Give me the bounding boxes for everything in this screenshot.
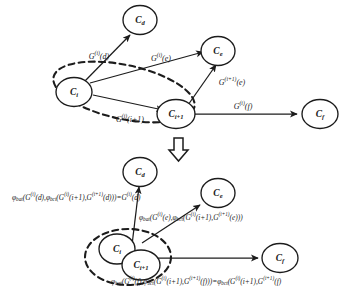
bottom-diagram: Cd Ce Ci Ci+1 Cf φbat(G(i)(d),φbct(G(i)(… [12, 158, 298, 287]
edge-label-gi1-e: G(i+1)(e) [219, 76, 246, 87]
figure-canvas: Cd Ce Ci Ci+1 Cf G(i)(d) G(i)(e) G(i)(i+… [0, 0, 352, 301]
node-cd-top: Cd [123, 6, 157, 35]
node-cd-bottom: Cd [123, 158, 157, 187]
edge-label-gi-d: G(i)(d) [89, 50, 110, 61]
node-ci1-top: Ci+1 [157, 100, 195, 129]
edge-label-gi-i1: G(i)(i+1) [116, 113, 144, 124]
edge-ci-to-ci1 [93, 95, 163, 110]
edge-label-gi-e: G(i)(e) [151, 52, 171, 63]
diagram-svg: Cd Ce Ci Ci+1 Cf G(i)(d) G(i)(e) G(i)(i+… [0, 0, 352, 301]
top-diagram: Cd Ce Ci Ci+1 Cf G(i)(d) G(i)(e) G(i)(i+… [48, 6, 338, 134]
formula-to-d: φbat(G(i)(d),φbct(G(i)(i+1),G(i+1)(d)))=… [12, 192, 141, 203]
node-ce-bottom: Ce [201, 179, 235, 208]
formula-to-e: φbat(G(i)(e),φbct(G(i)(i+1),G(i+1)(e))) [139, 212, 243, 223]
node-ci-top: Ci [56, 78, 92, 107]
node-ce-top: Ce [201, 37, 235, 66]
edge-ci1-to-ce [188, 65, 216, 105]
edge-label-gi-f: G(i)(f) [234, 100, 253, 111]
formula-to-f: φbat(G(i)(f),φbct(G(i)(i+1),G(i+1)(f)))=… [111, 276, 282, 287]
node-cf-top: Cf [302, 100, 338, 129]
node-ci1-bottom: Ci+1 [122, 250, 160, 280]
transform-arrow [169, 138, 188, 161]
node-cf-bottom: Cf [262, 244, 298, 273]
